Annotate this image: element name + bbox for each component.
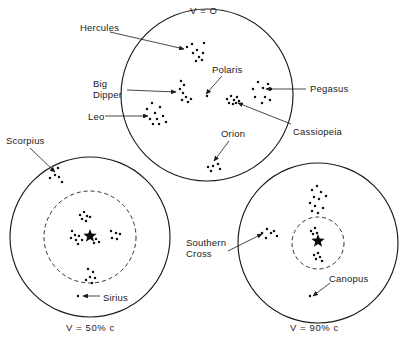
- star-dot: [85, 220, 88, 223]
- star-group-upper-cluster: [79, 211, 92, 223]
- star-dot: [192, 52, 195, 55]
- star-dot: [228, 102, 231, 105]
- leader-polaris: [206, 76, 222, 94]
- star-dot: [115, 232, 118, 235]
- star-dot: [269, 99, 272, 102]
- star-dot: [70, 237, 73, 240]
- label-hercules: Hercules: [80, 22, 119, 33]
- star-dot: [165, 121, 168, 124]
- star-group-sirius: [77, 295, 80, 298]
- star-dot: [77, 243, 80, 246]
- star-dot: [190, 98, 193, 101]
- star-dot: [252, 88, 255, 91]
- star-dot: [235, 102, 238, 105]
- star-dot: [210, 170, 213, 173]
- label-polaris: Polaris: [212, 64, 242, 75]
- star-group-polaris-bright: [311, 234, 324, 247]
- relativistic-aberration-figure: V = OHerculesBig DipperLeoPolarisPegasus…: [0, 0, 405, 341]
- star-dot: [257, 81, 260, 84]
- star-dot: [232, 103, 235, 106]
- star-dot: [186, 46, 189, 49]
- star-dot: [270, 232, 273, 235]
- star-dot: [58, 176, 61, 179]
- star-dot: [314, 205, 317, 208]
- star-group-inner-cluster-upper: [310, 227, 319, 236]
- label-cassiopeia: Cassiopeia: [293, 126, 342, 137]
- star-dot: [309, 295, 312, 298]
- star-dot: [309, 202, 312, 205]
- leader-big-dipper: [127, 90, 176, 92]
- star-group-pegasus: [252, 81, 273, 105]
- star-dot: [79, 214, 82, 217]
- star-group-cassiopeia: [226, 95, 241, 106]
- star-group-southern-cross: [261, 228, 279, 240]
- star-dot: [111, 237, 114, 240]
- star-group-upper-chain: [309, 185, 328, 215]
- star-dot: [179, 88, 182, 91]
- label-v-fifty: V = 50% c: [66, 322, 115, 333]
- star-dot: [51, 169, 54, 172]
- label-big-dipper: Big Dipper: [93, 78, 122, 100]
- star-dot: [219, 168, 222, 171]
- star-dot: [201, 59, 204, 62]
- star-dot: [202, 52, 205, 55]
- leader-southern: [228, 234, 262, 251]
- star-dot: [83, 211, 86, 214]
- star-dot: [313, 254, 316, 257]
- star-dot: [261, 102, 264, 105]
- star-dot: [151, 102, 154, 105]
- star-dot: [325, 195, 328, 198]
- star-dot: [261, 232, 264, 235]
- leader-canopus: [313, 283, 330, 296]
- star-group-right-group: [110, 230, 122, 241]
- star-dot: [317, 252, 320, 255]
- star-group-orion: [207, 163, 222, 173]
- star-dot: [195, 60, 198, 63]
- star-dot: [270, 88, 273, 91]
- star-dot: [183, 84, 186, 87]
- star-dot: [81, 218, 84, 221]
- star-group-big-dipper: [179, 80, 193, 104]
- star-dot: [315, 258, 318, 261]
- star-dot: [276, 235, 279, 238]
- star-dot: [85, 279, 88, 282]
- leader-orion: [214, 141, 229, 161]
- star-dot: [152, 123, 155, 126]
- leader-lines-layer: [30, 32, 330, 296]
- star-dot: [238, 100, 241, 103]
- star-dot: [119, 233, 122, 236]
- star-dot: [266, 228, 269, 231]
- star-dot: [273, 230, 276, 233]
- star-dot: [77, 295, 80, 298]
- star-dot: [265, 237, 268, 240]
- star-dot: [316, 232, 319, 235]
- label-pegasus: Pegasus: [310, 83, 348, 94]
- star-dot: [318, 198, 321, 201]
- star-dot: [311, 210, 314, 213]
- star-group-hercules: [186, 42, 206, 63]
- star-dot: [57, 167, 60, 170]
- star-dot: [310, 230, 313, 233]
- star-dot: [86, 215, 89, 218]
- star-dot: [320, 191, 323, 194]
- star-dot: [207, 166, 210, 169]
- label-v-ninety: V = 90% c: [290, 322, 339, 333]
- star-dot: [162, 115, 165, 118]
- star-group-scorpius: [49, 167, 64, 184]
- star-group-left-group: [70, 230, 84, 246]
- leader-scorpius: [30, 148, 55, 172]
- star-dot: [94, 277, 97, 280]
- star-dot: [262, 87, 265, 90]
- star-dot: [212, 165, 215, 168]
- star-dot: [321, 260, 324, 263]
- label-orion: Orion: [221, 128, 245, 139]
- star-dot: [95, 238, 98, 241]
- star-dot: [185, 96, 188, 99]
- star-dot: [180, 80, 183, 83]
- star-group-polaris: [206, 95, 209, 98]
- bright-star-marker: [311, 234, 324, 247]
- star-dot: [54, 174, 57, 177]
- star-dot: [264, 96, 267, 99]
- star-dot: [322, 207, 325, 210]
- star-dot: [93, 242, 96, 245]
